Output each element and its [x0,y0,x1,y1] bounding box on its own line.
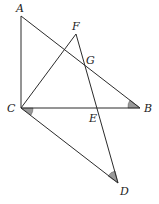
segment-cf [21,34,76,108]
label-b: B [143,102,152,115]
label-c: C [7,102,16,115]
label-d: D [119,185,129,198]
segment-cd [21,108,118,183]
diagram-svg: A F G C B E D [0,0,159,204]
geometry-diagram: A F G C B E D [0,0,159,204]
label-e: E [88,112,97,125]
label-f: F [71,20,80,33]
label-a: A [15,2,24,15]
segment-ab [21,16,140,108]
label-g: G [86,54,95,67]
